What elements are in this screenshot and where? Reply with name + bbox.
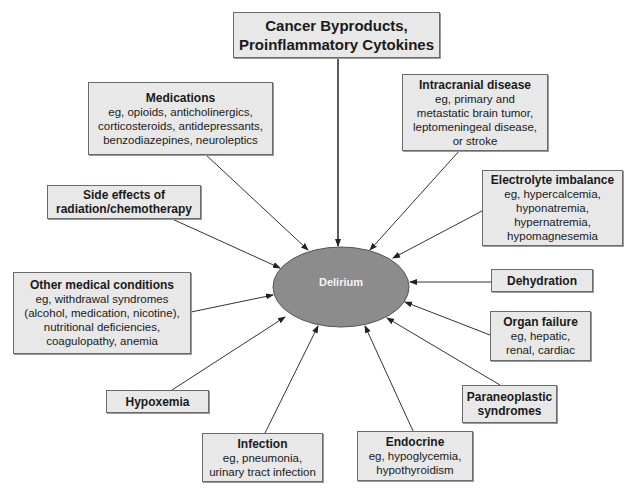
box-electrolyte-imbalance: Electrolyte imbalance eg, hypercalcemia,… (482, 170, 623, 246)
box-other-medical-conditions: Other medical conditions eg, withdrawal … (13, 272, 191, 354)
box-detail: hypothyroidism (376, 463, 453, 477)
box-detail: eg, hepatic, (511, 329, 570, 343)
box-detail: hypernatremia, (514, 215, 591, 229)
box-title: Cancer Byproducts, (265, 16, 408, 35)
box-title: Infection (238, 437, 288, 451)
box-title: Intracranial disease (419, 78, 531, 92)
box-detail: eg, primary and (435, 92, 515, 106)
box-title: Other medical conditions (30, 278, 174, 292)
box-detail: eg, hypercalcemia, (504, 187, 601, 201)
box-cancer-byproducts: Cancer Byproducts, Proinflammatory Cytok… (233, 12, 440, 58)
box-title: Paraneoplastic (467, 390, 552, 404)
box-detail: or stroke (453, 134, 498, 148)
box-endocrine: Endocrine eg, hypoglycemia, hypothyroidi… (357, 431, 473, 481)
box-title: Hypoxemia (125, 395, 189, 409)
box-detail: hypomagnesemia (507, 229, 598, 243)
delirium-causes-diagram: Delirium Cancer Byproducts, Proinflammat… (0, 0, 629, 496)
box-organ-failure: Organ failure eg, hepatic, renal, cardia… (490, 311, 591, 361)
box-detail: benzodiazepines, neuroleptics (103, 133, 258, 147)
box-detail: hyponatremia, (516, 201, 589, 215)
box-detail: corticosteroids, antidepressants, (98, 119, 263, 133)
box-title: Organ failure (503, 315, 578, 329)
box-detail: coagulopathy, anemia (46, 334, 158, 348)
box-title: radiation/chemotherapy (56, 202, 192, 216)
box-detail: eg, opioids, anticholinergics, (108, 105, 252, 119)
box-detail: metastatic brain tumor, (417, 106, 533, 120)
box-detail: leptomeningeal disease, (413, 120, 537, 134)
delirium-label: Delirium (272, 276, 410, 288)
box-detail: renal, cardiac (506, 343, 575, 357)
box-title: syndromes (477, 404, 541, 418)
box-intracranial-disease: Intracranial disease eg, primary and met… (402, 74, 548, 151)
box-title: Medications (146, 91, 215, 105)
box-detail: nutritional deficiencies, (44, 320, 160, 334)
box-title: Dehydration (507, 274, 577, 288)
box-detail: eg, pneumonia, (223, 451, 302, 465)
box-title: Proinflammatory Cytokines (239, 35, 434, 54)
box-title: Endocrine (386, 435, 445, 449)
box-dehydration: Dehydration (491, 269, 593, 292)
box-side-effects: Side effects of radiation/chemotherapy (47, 185, 201, 219)
box-title: Side effects of (83, 188, 165, 202)
box-hypoxemia: Hypoxemia (106, 390, 209, 413)
box-detail: eg, withdrawal syndromes (36, 292, 169, 306)
box-paraneoplastic-syndromes: Paraneoplastic syndromes (462, 385, 557, 423)
box-medications: Medications eg, opioids, anticholinergic… (88, 82, 273, 155)
box-infection: Infection eg, pneumonia, urinary tract i… (202, 433, 323, 482)
box-detail: (alcohol, medication, nicotine), (24, 306, 179, 320)
box-detail: urinary tract infection (209, 465, 316, 479)
box-detail: eg, hypoglycemia, (369, 449, 462, 463)
box-title: Electrolyte imbalance (491, 173, 614, 187)
